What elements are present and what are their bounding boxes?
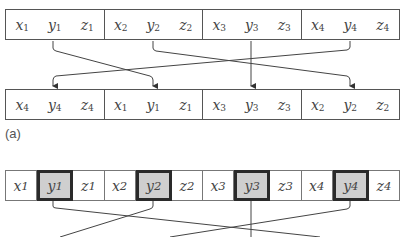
result-group-3: x3y3z3 (203, 90, 302, 119)
arrow-y1 (53, 41, 153, 86)
highlighted-cell-y2: y2 (136, 170, 172, 201)
cell-z2: z2 (172, 171, 203, 200)
cell-x2: x2 (302, 90, 335, 119)
arrow-y4 (53, 41, 350, 86)
cell-z4: z4 (369, 171, 399, 200)
cell-z4: z4 (71, 90, 104, 119)
line-b-y4 (170, 201, 350, 237)
cell-y4: y4 (39, 90, 72, 119)
cell-x1: x1 (6, 171, 37, 200)
cell-z2: z2 (367, 90, 400, 119)
cell-z3: z3 (268, 90, 301, 119)
cell-y1: y1 (137, 90, 170, 119)
cell-x3: x3 (203, 171, 234, 200)
cell-x3: x3 (203, 90, 236, 119)
result-group-1: x4y4z4 (6, 90, 105, 119)
panel-b-array: x1y1z1x2y2z2x3y3z3x4y4z4 (5, 170, 400, 201)
line-b-y2 (60, 201, 153, 237)
cell-z3: z3 (270, 171, 301, 200)
cell-x4: x4 (302, 171, 333, 200)
highlighted-cell-y1: y1 (37, 170, 73, 201)
result-group-2: x1y1z1 (105, 90, 204, 119)
cell-z1: z1 (170, 90, 203, 119)
cell-y2: y2 (334, 90, 367, 119)
panel-a-label: (a) (5, 126, 21, 141)
line-b-y1 (53, 201, 320, 237)
result-group-4: x2y2z2 (302, 90, 400, 119)
cell-x1: x1 (105, 90, 138, 119)
cell-x4: x4 (6, 90, 39, 119)
highlighted-cell-y4: y4 (333, 170, 369, 201)
cell-x2: x2 (105, 171, 136, 200)
highlighted-cell-y3: y3 (234, 170, 270, 201)
cell-z1: z1 (73, 171, 104, 200)
cell-y3: y3 (236, 90, 269, 119)
panel-a-result-array: x4y4z4x1y1z1x3y3z3x2y2z2 (5, 89, 400, 120)
